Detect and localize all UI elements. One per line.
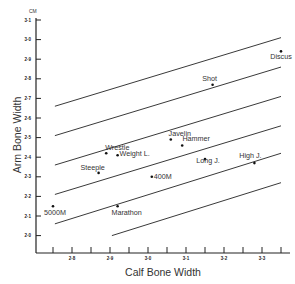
scatter-plot: CM2·02·12·22·32·42·52·62·72·82·93·03·12·…: [0, 0, 295, 284]
y-tick-label: 2·6: [24, 116, 31, 121]
data-point: [105, 152, 108, 155]
data-point: [253, 162, 256, 165]
x-tick-label: 2·9: [107, 256, 114, 261]
data-point-label: Long J.: [196, 156, 220, 165]
y-tick-label: 3·1: [24, 18, 31, 23]
y-tick-label: 2·1: [24, 214, 31, 219]
y-axis-title: Arm Bone Width: [11, 97, 23, 174]
data-point: [116, 154, 119, 157]
x-axis-title: Calf Bone Width: [125, 266, 201, 278]
y-tick-label: 2·9: [24, 57, 31, 62]
y-tick-label: 2·2: [24, 194, 31, 199]
y-tick-label: 2·8: [24, 76, 31, 81]
x-tick-label: 3·3: [259, 256, 266, 261]
data-point-label: Weight L.: [120, 149, 150, 158]
data-point-label: Steeple: [80, 163, 104, 172]
reference-line: [55, 67, 281, 136]
x-tick-label: 3·1: [183, 256, 190, 261]
x-tick-label: 3·2: [221, 256, 228, 261]
data-point-label: Hammer: [182, 134, 210, 143]
chart: CM2·02·12·22·32·42·52·62·72·82·93·03·12·…: [0, 0, 295, 284]
x-tick-label: 3·0: [145, 256, 152, 261]
y-tick-label: 2·7: [24, 96, 31, 101]
x-tick-label: 2·8: [69, 256, 76, 261]
data-point: [116, 205, 119, 208]
y-tick-label: 2·3: [24, 174, 31, 179]
data-point-label: 5000M: [44, 208, 66, 217]
y-tick-label: 2·0: [24, 233, 31, 238]
data-point-label: Discus: [270, 52, 292, 61]
y-tick-label: 2·4: [24, 155, 31, 160]
y-tick-label: 2·5: [24, 135, 31, 140]
data-point: [170, 138, 173, 141]
data-point-label: Marathon: [111, 208, 141, 217]
data-point: [211, 83, 214, 86]
data-point-label: High J.: [239, 151, 261, 160]
data-point: [97, 172, 100, 175]
data-point-label: 400M: [154, 172, 172, 181]
reference-line: [55, 38, 281, 107]
y-unit-label: CM: [29, 8, 37, 14]
data-point: [52, 205, 55, 208]
data-point: [181, 144, 184, 147]
data-point: [151, 176, 154, 179]
y-tick-label: 3·0: [24, 37, 31, 42]
data-point-label: Shot: [202, 74, 217, 83]
